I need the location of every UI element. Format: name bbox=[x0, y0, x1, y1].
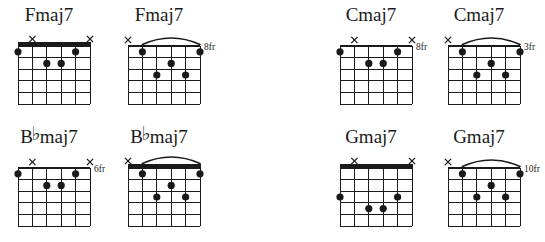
chord-name-cmaj7-8fr: Cmaj7 bbox=[330, 4, 412, 26]
finger-dot bbox=[459, 48, 466, 55]
muted-string-x-icon bbox=[351, 158, 357, 164]
finger-dot bbox=[473, 71, 480, 78]
fret-position-label: 6fr bbox=[94, 164, 105, 174]
chord-name-cmaj7-3fr: Cmaj7 bbox=[438, 4, 520, 26]
finger-dot bbox=[473, 193, 480, 200]
muted-string-x-icon bbox=[87, 36, 93, 42]
chord-name-text: Fmaj7 bbox=[25, 4, 74, 25]
finger-dot bbox=[488, 182, 495, 189]
fret-position-label: 3fr bbox=[524, 42, 535, 52]
muted-string-x-icon bbox=[125, 158, 131, 164]
finger-dot bbox=[380, 205, 387, 212]
barre-arc bbox=[462, 160, 520, 167]
muted-string-x-icon bbox=[409, 37, 415, 43]
muted-string-x-icon bbox=[409, 158, 415, 164]
chord-name-gmaj7-10fr: Gmaj7 bbox=[438, 126, 520, 148]
finger-dot bbox=[196, 48, 203, 55]
finger-dot bbox=[336, 193, 343, 200]
chord-name-text: Gmaj7 bbox=[453, 126, 505, 147]
muted-string-x-icon bbox=[445, 159, 451, 165]
barre-arc bbox=[142, 157, 200, 164]
fretboard-bbmaj7-open bbox=[118, 148, 226, 230]
finger-dot bbox=[58, 60, 65, 67]
chord-name-text: Gmaj7 bbox=[345, 126, 397, 147]
chord-name-root: B bbox=[20, 126, 33, 147]
muted-string-x-icon bbox=[445, 37, 451, 43]
finger-dot bbox=[488, 60, 495, 67]
finger-dot bbox=[502, 71, 509, 78]
finger-dot bbox=[14, 48, 21, 55]
finger-dot bbox=[365, 205, 372, 212]
barre-arc bbox=[142, 38, 200, 45]
flat-symbol-icon: ♭ bbox=[142, 123, 151, 144]
flat-symbol-icon: ♭ bbox=[32, 123, 41, 144]
finger-dot bbox=[182, 71, 189, 78]
finger-dot bbox=[14, 170, 21, 177]
muted-string-x-icon bbox=[351, 37, 357, 43]
finger-dot bbox=[153, 193, 160, 200]
fretboard-cmaj7-8fr bbox=[330, 26, 438, 108]
finger-dot bbox=[153, 71, 160, 78]
muted-string-x-icon bbox=[125, 37, 131, 43]
finger-dot bbox=[168, 60, 175, 67]
finger-dot bbox=[516, 170, 523, 177]
finger-dot bbox=[516, 48, 523, 55]
chord-name-fmaj7-8fr: Fmaj7 bbox=[118, 4, 200, 26]
finger-dot bbox=[72, 48, 79, 55]
fret-position-label: 8fr bbox=[204, 42, 215, 52]
chord-name-text: Cmaj7 bbox=[346, 4, 397, 25]
finger-dot bbox=[336, 48, 343, 55]
finger-dot bbox=[139, 170, 146, 177]
fretboard-bbmaj7-6fr bbox=[8, 148, 116, 230]
finger-dot bbox=[58, 182, 65, 189]
finger-dot bbox=[502, 193, 509, 200]
finger-dot bbox=[182, 193, 189, 200]
chord-name-quality: maj7 bbox=[40, 126, 78, 147]
finger-dot bbox=[459, 170, 466, 177]
finger-dot bbox=[380, 60, 387, 67]
fret-position-label: 8fr bbox=[416, 42, 427, 52]
muted-string-x-icon bbox=[29, 159, 35, 165]
finger-dot bbox=[72, 170, 79, 177]
fretboard-gmaj7-10fr bbox=[438, 148, 545, 230]
finger-dot bbox=[139, 48, 146, 55]
muted-string-x-icon bbox=[87, 159, 93, 165]
fretboard-cmaj7-3fr bbox=[438, 26, 545, 108]
muted-string-x-icon bbox=[29, 36, 35, 42]
chord-name-fmaj7-open: Fmaj7 bbox=[8, 4, 90, 26]
chord-name-root: B bbox=[130, 126, 143, 147]
fretboard-fmaj7-8fr bbox=[118, 26, 226, 108]
finger-dot bbox=[394, 48, 401, 55]
finger-dot bbox=[43, 60, 50, 67]
finger-dot bbox=[365, 60, 372, 67]
chord-name-quality: maj7 bbox=[150, 126, 188, 147]
chord-name-gmaj7-open: Gmaj7 bbox=[330, 126, 412, 148]
fretboard-gmaj7-open bbox=[330, 148, 438, 230]
finger-dot bbox=[43, 182, 50, 189]
chord-name-text: Fmaj7 bbox=[135, 4, 184, 25]
fretboard-fmaj7-open bbox=[8, 26, 116, 108]
chord-name-text: Cmaj7 bbox=[454, 4, 505, 25]
chord-name-bbmaj7-6fr: B♭maj7 bbox=[8, 126, 90, 148]
finger-dot bbox=[168, 182, 175, 189]
fret-position-label: 10fr bbox=[524, 164, 540, 174]
finger-dot bbox=[196, 170, 203, 177]
finger-dot bbox=[394, 193, 401, 200]
chord-name-bbmaj7-open: B♭maj7 bbox=[118, 126, 200, 148]
barre-arc bbox=[462, 38, 520, 45]
